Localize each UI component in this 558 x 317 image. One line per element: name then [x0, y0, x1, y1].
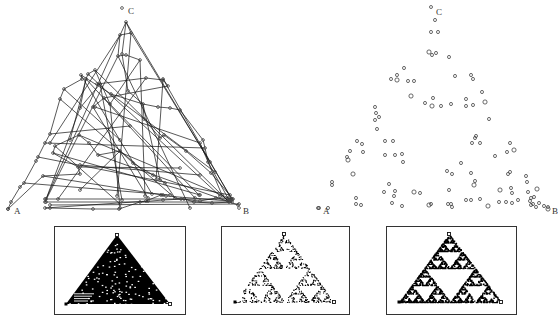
point-marker: [530, 196, 533, 199]
gap-speck: [92, 288, 94, 289]
point-marker: [407, 79, 410, 82]
gap-speck: [148, 288, 150, 289]
gap-speck: [87, 276, 89, 277]
chaos-path-segment: [50, 35, 120, 143]
gap-speck: [148, 299, 150, 300]
point-marker: [447, 202, 450, 205]
gap-speck: [119, 264, 121, 265]
gap-speck: [120, 257, 122, 258]
gap-speck: [108, 250, 110, 251]
gap-speck: [110, 287, 112, 288]
gap-speck: [153, 300, 155, 301]
thumbnail-medium-rendering: [387, 227, 517, 315]
point-marker: [374, 118, 377, 121]
point-marker: [535, 205, 538, 208]
point-marker: [472, 77, 475, 80]
gap-speck: [130, 286, 132, 287]
gap-speck: [119, 291, 121, 292]
point-marker: [394, 189, 397, 192]
vertex-c-marker: [283, 233, 286, 236]
point-marker: [451, 172, 454, 175]
point-marker: [391, 201, 394, 204]
vertex-c-marker: [448, 233, 451, 236]
point-marker: [440, 104, 443, 107]
point-marker: [533, 195, 536, 198]
gap-speck: [156, 290, 158, 291]
gap-speck: [167, 302, 169, 303]
point-marker: [512, 148, 516, 152]
gap-speck: [105, 287, 107, 288]
point-marker: [396, 73, 399, 76]
gap-speck: [97, 281, 99, 282]
point-marker: [355, 196, 358, 199]
gap-speck: [125, 300, 127, 301]
point-marker: [392, 139, 395, 142]
gap-speck: [159, 300, 161, 301]
gap-speck: [119, 251, 121, 252]
point-marker: [479, 141, 482, 144]
chaos-game-figure: A B C A B C: [0, 0, 558, 317]
gap-speck: [128, 294, 130, 295]
gap-speck: [126, 286, 128, 287]
gap-speck: [111, 252, 113, 253]
gap-speck: [115, 272, 117, 273]
vertex-a-marker: [65, 303, 68, 306]
point-marker: [517, 198, 520, 201]
gap-speck: [106, 300, 108, 301]
point-marker: [351, 172, 355, 176]
gap-speck: [103, 265, 105, 266]
point-marker: [412, 190, 416, 194]
gap-speck: [114, 252, 116, 253]
point-marker: [460, 161, 463, 164]
gap-speck: [86, 303, 88, 304]
point-marker: [535, 187, 539, 191]
gap-speck: [81, 290, 83, 291]
point-marker: [413, 79, 416, 82]
gap-speck: [132, 276, 134, 277]
point-marker: [355, 202, 358, 205]
point-marker: [432, 96, 435, 99]
gap-speck: [134, 287, 136, 288]
point-marker: [378, 115, 381, 118]
point-marker: [448, 55, 451, 58]
vertex-b-marker: [169, 303, 172, 306]
gap-speck: [149, 294, 151, 295]
gap-speck: [130, 299, 132, 300]
gap-speck: [119, 304, 121, 305]
point-marker: [448, 188, 451, 191]
point-marker: [450, 102, 453, 105]
gap-speck: [116, 277, 118, 278]
point-marker: [409, 94, 413, 98]
point-marker: [472, 183, 476, 187]
vertex-label-a: A: [14, 206, 21, 216]
point-marker: [510, 186, 513, 189]
point-marker: [525, 174, 528, 177]
gap-speck: [152, 283, 154, 284]
point-marker: [479, 197, 482, 200]
vertex-label-c: C: [436, 7, 442, 17]
gap-speck: [131, 304, 133, 305]
point-marker: [483, 100, 487, 104]
point-marker: [527, 190, 530, 193]
gap-speck: [117, 244, 119, 245]
vertex-marker: [430, 6, 433, 9]
gap-speck: [121, 292, 123, 293]
chaos-path-segment: [143, 104, 160, 180]
gap-speck: [114, 291, 116, 292]
gap-speck: [114, 266, 116, 267]
gap-speck: [138, 281, 140, 282]
gap-speck: [111, 299, 113, 300]
gap-speck: [106, 274, 108, 275]
point-marker: [401, 204, 404, 207]
point-marker: [375, 111, 378, 114]
point-marker: [543, 204, 546, 207]
gap-speck: [113, 290, 115, 291]
point-marker: [427, 203, 431, 207]
gap-speck: [88, 278, 90, 279]
gap-speck: [86, 282, 88, 283]
point-marker: [384, 139, 387, 142]
point-marker: [470, 198, 473, 201]
chaos-path-segment: [50, 126, 130, 134]
gap-speck: [86, 284, 88, 285]
vertex-b-marker: [500, 301, 503, 304]
